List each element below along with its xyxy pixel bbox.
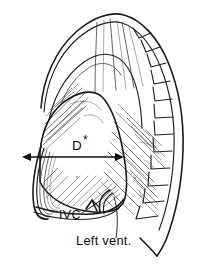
left-ventricle-label: Left vent. xyxy=(76,233,131,248)
diaphragm-diameter-label: D xyxy=(72,138,82,153)
lateral-chest-illustration: D * IVC Left vent. xyxy=(0,0,206,269)
diameter-asterisk: * xyxy=(83,133,88,147)
inferior-vena-cava-label: IVC xyxy=(59,208,81,222)
figure-root: D * IVC Left vent. xyxy=(0,0,206,269)
